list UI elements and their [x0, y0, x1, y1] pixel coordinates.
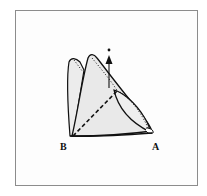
folding-diagram — [0, 0, 207, 196]
arrow-up-icon — [106, 55, 113, 64]
corner-a-label: A — [152, 142, 159, 152]
corner-b-label: B — [60, 142, 67, 152]
arrow-dot — [108, 49, 111, 52]
